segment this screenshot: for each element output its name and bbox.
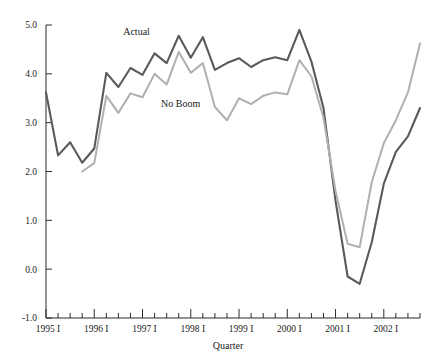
y-tick-label: 1.0	[25, 216, 37, 226]
x-tick-label: 2001 I	[325, 324, 350, 334]
y-tick-label: 0.0	[25, 265, 37, 275]
x-tick-label: 1999 I	[229, 324, 254, 334]
x-tick-label: 2002 I	[374, 324, 399, 334]
y-tick-label: 2.0	[25, 167, 37, 177]
y-tick-label: 4.0	[25, 69, 37, 79]
chart-canvas: -1.00.01.02.03.04.05.01995 I1996 I1997 I…	[0, 0, 434, 359]
x-tick-label: 1998 I	[181, 324, 206, 334]
series-line-no-boom	[82, 44, 420, 248]
x-tick-label: 2000 I	[277, 324, 302, 334]
y-tick-label: 5.0	[25, 20, 37, 30]
series-line-actual	[46, 30, 420, 284]
chart-series-group	[46, 30, 420, 284]
series-annotation-no-boom: No Boom	[161, 98, 200, 109]
x-axis-title: Quarter	[213, 340, 244, 351]
line-chart: -1.00.01.02.03.04.05.01995 I1996 I1997 I…	[0, 0, 434, 359]
y-tick-label: -1.0	[22, 313, 37, 323]
y-tick-label: 3.0	[25, 118, 37, 128]
x-tick-label: 1997 I	[132, 324, 157, 334]
x-tick-label: 1996 I	[84, 324, 109, 334]
x-tick-label: 1995 I	[36, 324, 61, 334]
series-annotation-actual: Actual	[123, 26, 150, 37]
